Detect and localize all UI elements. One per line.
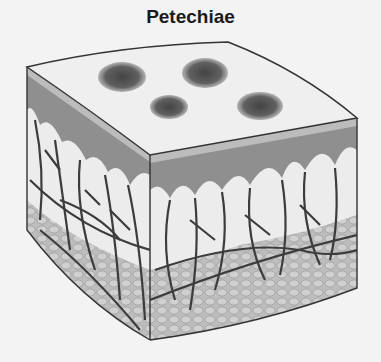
petechia-spot xyxy=(237,92,283,120)
petechia-spot xyxy=(182,58,228,88)
skin-block-illustration xyxy=(0,0,381,362)
petechia-spot xyxy=(98,62,146,92)
petechiae-diagram: Petechiae xyxy=(0,0,381,362)
petechia-spot xyxy=(150,95,188,119)
